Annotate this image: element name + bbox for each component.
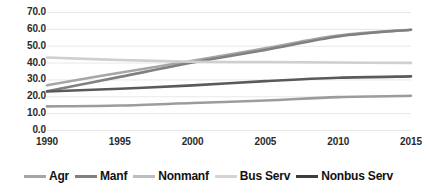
series-lines bbox=[47, 30, 411, 107]
legend-item-agr[interactable]: Agr bbox=[21, 169, 72, 183]
series-line-nonmanf bbox=[47, 96, 411, 107]
series-line-nonbus-serv bbox=[47, 76, 411, 91]
y-tick-label: 10.0 bbox=[2, 108, 46, 118]
legend-swatch-icon bbox=[24, 175, 46, 178]
legend-label: Nonmanf bbox=[158, 169, 209, 183]
x-tick-label: 1990 bbox=[24, 136, 70, 148]
legend-label: Nonbus Serv bbox=[321, 169, 393, 183]
legend-item-nonmanf[interactable]: Nonmanf bbox=[130, 169, 212, 183]
legend-swatch-icon bbox=[296, 175, 318, 178]
plot-svg bbox=[0, 0, 417, 150]
legend-swatch-icon bbox=[133, 175, 155, 178]
legend-label: Agr bbox=[49, 169, 69, 183]
chart-legend: AgrManfNonmanfBus ServNonbus Serv bbox=[0, 165, 417, 187]
legend-label: Manf bbox=[100, 169, 127, 183]
legend-item-manf[interactable]: Manf bbox=[72, 169, 130, 183]
x-axis: 199019952000200520102015 bbox=[0, 136, 417, 152]
y-tick-label: 60.0 bbox=[2, 24, 46, 34]
x-tick-label: 2010 bbox=[315, 136, 361, 148]
y-tick-label: 30.0 bbox=[2, 74, 46, 84]
plot-area bbox=[0, 0, 417, 150]
x-tick-label: 2000 bbox=[170, 136, 216, 148]
gridlines bbox=[47, 13, 411, 131]
y-tick-label: 40.0 bbox=[2, 58, 46, 68]
y-tick-label: 20.0 bbox=[2, 91, 46, 101]
y-tick-label: 50.0 bbox=[2, 41, 46, 51]
x-tick-label: 2015 bbox=[388, 136, 427, 148]
legend-item-bus-serv[interactable]: Bus Serv bbox=[212, 169, 293, 183]
x-tick-label: 2005 bbox=[242, 136, 288, 148]
x-tick-label: 1995 bbox=[97, 136, 143, 148]
legend-swatch-icon bbox=[215, 175, 237, 178]
y-tick-label: 70.0 bbox=[2, 7, 46, 17]
legend-swatch-icon bbox=[75, 175, 97, 178]
legend-label: Bus Serv bbox=[240, 169, 290, 183]
y-axis: 70.060.050.040.030.020.010.00.0 bbox=[2, 0, 46, 150]
y-tick-label: 0.0 bbox=[2, 125, 46, 135]
series-line-bus-serv bbox=[47, 58, 411, 63]
legend-item-nonbus-serv[interactable]: Nonbus Serv bbox=[293, 169, 396, 183]
